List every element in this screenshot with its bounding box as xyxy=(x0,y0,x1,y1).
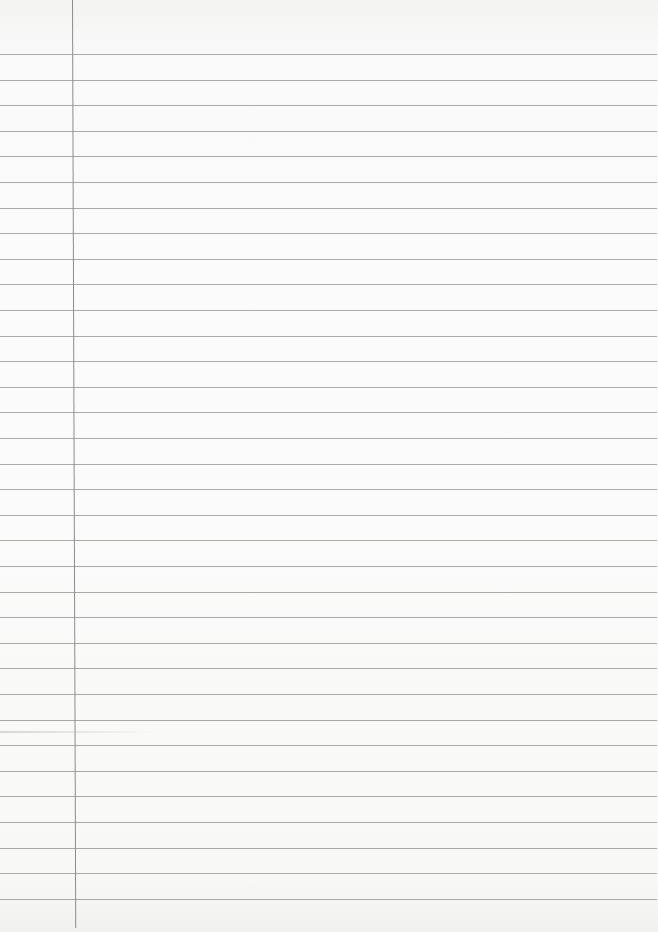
ruled-line xyxy=(0,515,657,516)
ruled-line xyxy=(0,540,657,541)
ruled-line xyxy=(0,54,657,55)
ruled-line xyxy=(0,592,657,593)
ruled-line xyxy=(0,873,657,874)
ruled-line xyxy=(0,668,657,669)
ruled-line xyxy=(0,720,657,721)
lined-paper-sheet xyxy=(0,0,658,932)
ruled-line xyxy=(0,617,657,618)
ruled-line xyxy=(0,208,657,209)
ruled-line xyxy=(0,336,657,337)
ruled-line xyxy=(0,182,657,183)
ruled-line xyxy=(0,131,657,132)
ruled-line xyxy=(0,105,657,106)
ruled-line xyxy=(0,387,657,388)
ruled-line xyxy=(0,899,657,900)
ruled-line xyxy=(0,361,657,362)
ruled-line xyxy=(0,310,657,311)
ruled-line xyxy=(0,848,657,849)
ruled-line xyxy=(0,464,657,465)
ruled-line xyxy=(0,438,657,439)
scan-smudge xyxy=(0,731,160,733)
ruled-line xyxy=(0,694,657,695)
ruled-line xyxy=(0,771,657,772)
ruled-line xyxy=(0,796,657,797)
ruled-line xyxy=(0,259,657,260)
ruled-line xyxy=(0,566,657,567)
ruled-line xyxy=(0,156,657,157)
ruled-line xyxy=(0,80,657,81)
ruled-line xyxy=(0,745,657,746)
ruled-line xyxy=(0,822,657,823)
ruled-line xyxy=(0,233,657,234)
ruled-line xyxy=(0,284,657,285)
ruled-line xyxy=(0,643,657,644)
ruled-line xyxy=(0,489,657,490)
ruled-line xyxy=(0,412,657,413)
